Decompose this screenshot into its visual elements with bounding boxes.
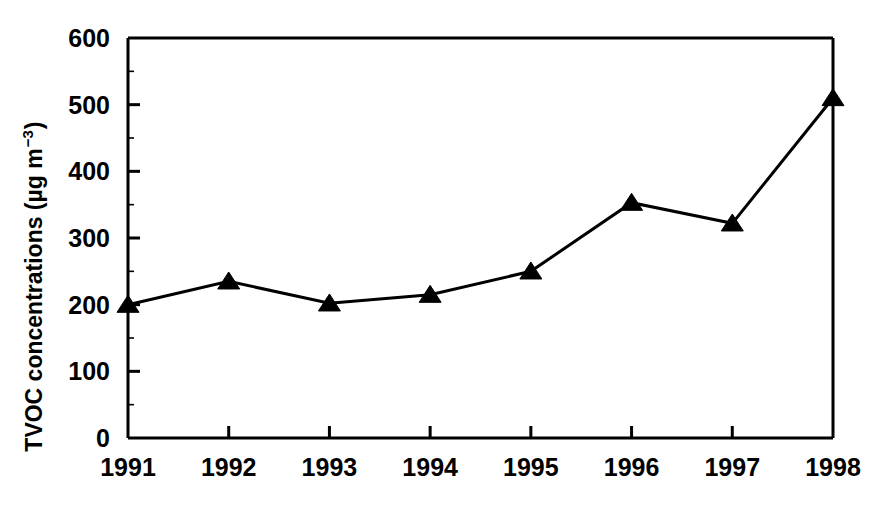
x-tick-label-1996: 1996 — [604, 453, 660, 481]
chart-figure: 0100200300400500600 19911992199319941995… — [0, 0, 878, 505]
y-tick-label-400: 400 — [68, 157, 110, 185]
y-axis-tick-labels: 0100200300400500600 — [68, 24, 110, 452]
series-line-tvoc — [128, 98, 833, 305]
x-tick-label-1993: 1993 — [302, 453, 358, 481]
y-axis-title-exponent: −3 — [19, 130, 36, 147]
x-tick-label-1995: 1995 — [503, 453, 559, 481]
x-tick-label-1991: 1991 — [100, 453, 156, 481]
y-tick-label-0: 0 — [96, 424, 110, 452]
data-point-1998 — [822, 89, 844, 106]
y-tick-label-200: 200 — [68, 291, 110, 319]
y-axis-title-close-paren: ) — [21, 122, 47, 130]
y-tick-label-600: 600 — [68, 24, 110, 52]
x-tick-label-1998: 1998 — [805, 453, 861, 481]
x-tick-label-1997: 1997 — [704, 453, 760, 481]
y-axis-title: TVOC concentrations (µg m −3 ) — [19, 122, 47, 452]
y-axis-title-text: TVOC concentrations (µg m — [21, 148, 47, 451]
x-axis-tick-labels: 19911992199319941995199619971998 — [100, 453, 861, 481]
x-axis-major-ticks — [229, 426, 733, 438]
chart-canvas: 0100200300400500600 19911992199319941995… — [0, 0, 878, 505]
data-point-1992 — [218, 272, 240, 289]
data-point-1996 — [621, 193, 643, 210]
y-tick-label-500: 500 — [68, 91, 110, 119]
series-markers-tvoc — [117, 89, 844, 313]
plot-frame — [128, 38, 833, 438]
x-tick-label-1994: 1994 — [402, 453, 458, 481]
y-tick-label-300: 300 — [68, 224, 110, 252]
x-tick-label-1992: 1992 — [201, 453, 257, 481]
y-axis-major-ticks — [128, 105, 140, 372]
y-tick-label-100: 100 — [68, 357, 110, 385]
